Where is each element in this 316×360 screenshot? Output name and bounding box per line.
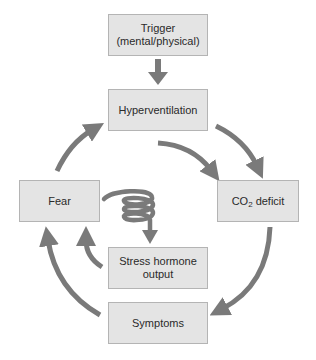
fear-label: Fear — [48, 195, 71, 208]
spiral-fear-to-stress — [104, 191, 158, 244]
trigger-sublabel: (mental/physical) — [116, 35, 199, 48]
arrow-symptoms-to-fear — [48, 240, 100, 315]
arrow-fear-to-hyperventilation — [57, 130, 92, 171]
co2-prefix: CO — [232, 195, 249, 207]
node-fear: Fear — [19, 180, 100, 222]
trigger-label: Trigger — [116, 22, 199, 35]
arrow-hyperventilation-to-co2-inner — [158, 143, 211, 170]
node-trigger: Trigger (mental/physical) — [108, 14, 208, 56]
node-stress-hormone-output: Stress hormone output — [108, 247, 208, 289]
symptoms-label: Symptoms — [132, 317, 184, 330]
arrow-trigger-to-hyperventilation — [148, 59, 168, 85]
node-co2-deficit: CO2 deficit — [217, 180, 299, 222]
arrow-hyperventilation-to-co2-outer — [216, 126, 257, 166]
node-symptoms: Symptoms — [108, 302, 208, 344]
hyperventilation-label: Hyperventilation — [119, 104, 198, 117]
node-hyperventilation: Hyperventilation — [108, 89, 208, 131]
arrow-stress-to-fear — [86, 240, 102, 267]
arrow-co2-to-symptoms — [222, 227, 270, 309]
co2-suffix: deficit — [253, 195, 285, 207]
stress-label-line1: Stress hormone — [119, 255, 197, 268]
stress-label-line2: output — [119, 268, 197, 281]
co2-deficit-label: CO2 deficit — [232, 195, 285, 208]
